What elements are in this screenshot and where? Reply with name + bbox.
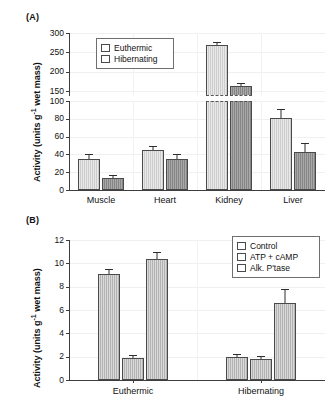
error-bar-cap [277,109,285,110]
y-tick [66,287,69,288]
y-tick [66,310,69,311]
error-bar-cap [257,356,265,357]
bar-kidney-hibernating-lower [230,101,252,190]
y-tick-label: 4 [35,329,64,337]
x-category-label: Euthermic [83,386,183,396]
y-tick [66,119,69,120]
y-tick-label: 8 [35,282,64,290]
bar-liver-euthermic [270,118,292,190]
legend-swatch-atp-camp [237,253,246,261]
bar-hibernating-series-3 [274,303,296,380]
panel-a-legend: EuthermicHibernating [96,38,174,69]
error-bar [277,109,285,118]
y-tick [66,101,69,102]
error-bar-stem [157,252,158,259]
y-tick [66,357,69,358]
x-tick [261,380,262,383]
x-axis [69,380,325,381]
y-tick-label: 200 [35,67,64,75]
error-bar [281,289,289,303]
error-bar [233,354,241,356]
y-tick [66,52,69,53]
legend-swatch-alk-p-tase [237,264,246,272]
error-bar-cap [237,83,245,84]
grid-line [261,33,262,95]
bar-euthermic-series-3 [146,259,168,380]
axis-break-mark [206,101,228,102]
bar-kidney-euthermic-upper [206,45,228,95]
error-bar-cap [149,146,157,147]
error-bar-cap [233,354,241,355]
error-bar-stem [281,109,282,118]
error-bar-cap [85,154,93,155]
panel-b-plot-area: 024681012EuthermicHibernatingControlATP … [0,208,335,416]
panel-a: (A) Activity (units g-1 wet mass) 020406… [0,0,335,208]
bar-kidney-hibernating-upper [230,86,252,95]
error-bar [109,175,117,178]
bar-hibernating-series-2 [250,359,272,380]
error-bar-cap [213,42,221,43]
y-tick [66,33,69,34]
legend-label: Euthermic [114,44,152,53]
x-category-label: Liver [253,195,333,205]
y-tick-label: 100 [35,97,64,105]
panel-b: (B) Activity (units g-1 wet mass) 024681… [0,208,335,416]
grid-line [197,33,198,95]
panel-b-legend: ControlATP + cAMPAlk. P'tase [232,236,320,278]
bar-hibernating-series-1 [226,357,248,380]
y-tick-label: 0 [35,376,64,384]
y-tick [66,91,69,92]
error-bar [105,269,113,274]
error-bar-cap [105,269,113,270]
error-bar-stem [305,143,306,152]
legend-row: Hibernating [101,54,168,64]
grid-line [261,101,262,190]
error-bar-cap [301,143,309,144]
grid-line [197,101,198,190]
y-tick-label: 10 [35,259,64,267]
y-tick-label: 0 [35,186,64,194]
y-tick-label: 40 [35,150,64,158]
error-bar-cap [281,289,289,290]
error-bar [213,42,221,45]
y-tick-label: 250 [35,48,64,56]
grid-line [197,240,198,380]
y-tick-label: 150 [35,87,64,95]
y-axis-upper [69,33,70,96]
error-bar-cap [153,252,161,253]
x-category-label: Hibernating [211,386,311,396]
legend-row: Control [237,241,314,251]
legend-label: ATP + cAMP [250,253,298,262]
y-tick [66,154,69,155]
error-bar [129,355,137,359]
y-tick-label: 2 [35,352,64,360]
y-axis [69,240,70,381]
y-tick [66,137,69,138]
y-tick [66,333,69,334]
y-tick-label: 60 [35,132,64,140]
x-tick [133,380,134,383]
bar-heart-hibernating [166,159,188,190]
legend-row: Alk. P'tase [237,263,314,273]
panel-a-plot-area: 020406080100150200250300MuscleHeartKidne… [0,0,335,208]
axis-break-mark [206,95,228,96]
y-tick [66,172,69,173]
axis-break-mark [230,95,252,96]
bar-heart-euthermic [142,150,164,190]
error-bar-stem [285,289,286,303]
error-bar [85,154,93,159]
y-tick [66,190,69,191]
legend-swatch-hibernating [101,55,110,63]
y-tick-label: 300 [35,29,64,37]
x-axis [69,190,325,191]
figure-container: (A) Activity (units g-1 wet mass) 020406… [0,0,335,416]
legend-swatch-euthermic [101,44,110,52]
bar-muscle-euthermic [78,159,100,190]
y-tick [66,380,69,381]
y-tick [66,240,69,241]
axis-break-mark [230,101,252,102]
error-bar [301,143,309,152]
error-bar [237,83,245,87]
bar-muscle-hibernating [102,178,124,190]
error-bar-cap [173,154,181,155]
